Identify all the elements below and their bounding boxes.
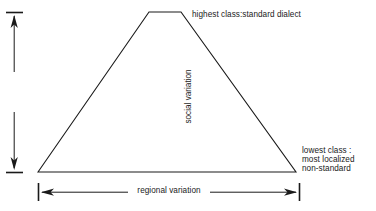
social-variation-axis-group bbox=[6, 13, 23, 173]
diagram-canvas: highest class:standard dialect lowest cl… bbox=[0, 0, 376, 211]
pyramid-trapezoid-group bbox=[38, 12, 296, 172]
apex-annotation-label: highest class:standard dialect bbox=[192, 10, 301, 19]
regional-variation-axis-label: regional variation bbox=[134, 186, 203, 195]
regional-variation-axis-label-wrapper: regional variation bbox=[0, 186, 338, 195]
base-annotation-line-1: lowest class : bbox=[302, 146, 355, 155]
pyramid-trapezoid-shape bbox=[38, 12, 296, 172]
base-annotation-label-block: lowest class : most localized non-standa… bbox=[302, 146, 355, 174]
base-annotation-line-3: non-standard bbox=[302, 164, 355, 173]
social-variation-axis-label: social variation bbox=[184, 69, 193, 123]
base-annotation-line-2: most localized bbox=[302, 155, 355, 164]
